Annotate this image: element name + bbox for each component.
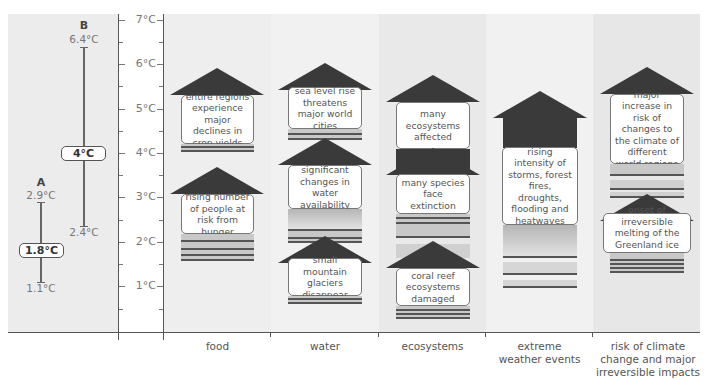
impact-water-sea-level: sea level rise threatens major world cit…: [288, 87, 362, 129]
tick: [157, 197, 163, 198]
tick-label-4: 4°C: [116, 146, 156, 159]
range-a-best-estimate: 1.8°C: [19, 243, 64, 258]
axis-right-line: [163, 14, 164, 340]
tick-minor: [159, 42, 163, 43]
stack-bar: [396, 224, 470, 238]
impact-eco-species-extinction: many species face extinction: [396, 174, 470, 214]
stack-bar: [288, 300, 362, 304]
tick-x: [485, 332, 486, 337]
arrow-roof: [386, 241, 480, 268]
arrow-roof: [170, 167, 264, 194]
range-b-best-estimate: 4°C: [61, 146, 106, 161]
tick: [157, 109, 163, 110]
tick-label-7: 7°C: [116, 13, 156, 26]
category-water: water: [271, 340, 379, 353]
tick: [157, 64, 163, 65]
tick-x: [378, 332, 379, 337]
tick-minor: [119, 131, 123, 132]
tick: [157, 242, 163, 243]
tick-minor: [119, 309, 123, 310]
range-a-low: 1.1°C: [16, 282, 66, 294]
tick: [157, 286, 163, 287]
arrow-roof: [278, 138, 372, 165]
category-risk-line3: irreversible impacts: [590, 366, 706, 379]
stack-bar: [610, 269, 684, 273]
tick-minor: [119, 86, 123, 87]
category-risk-line2: change and major: [590, 353, 706, 366]
stack-bar: [503, 280, 577, 288]
stack-bar: [396, 315, 470, 319]
tick-minor: [159, 309, 163, 310]
arrow-roof: [493, 91, 587, 118]
impact-eco-many-ecosystems: many ecosystems affected: [396, 102, 470, 149]
tick-minor: [119, 42, 123, 43]
stack-bar: [610, 180, 684, 190]
arrow-roof: [386, 148, 480, 175]
tick-label-5: 5°C: [116, 102, 156, 115]
range-b-low: 2.4°C: [59, 226, 109, 238]
impact-food-crop-yields: entire regions experience major declines…: [181, 95, 254, 144]
tick-label-6: 6°C: [116, 57, 156, 70]
impact-risk-greenland: onset of irreversible melting of the Gre…: [603, 213, 691, 253]
impact-water-availability: significant changes in water availabilit…: [288, 165, 362, 209]
stack-bar: [610, 253, 684, 261]
tick-minor: [159, 86, 163, 87]
baseline: [8, 332, 700, 333]
range-a-high: 2.9°C: [16, 189, 66, 201]
range-b-high: 6.4°C: [59, 33, 109, 45]
stack-bar: [181, 256, 254, 261]
range-b-line: [83, 47, 85, 227]
tick-x: [592, 332, 593, 337]
range-a-letter: A: [31, 176, 51, 189]
stack-gradient: [288, 209, 362, 231]
category-extreme-line2: weather events: [486, 353, 593, 366]
tick-x: [270, 332, 271, 337]
tick-label-2: 2°C: [116, 235, 156, 248]
category-ecosystems: ecosystems: [379, 340, 486, 353]
category-risk: risk of climate change and major irrever…: [590, 340, 706, 379]
stack-bar: [610, 164, 684, 176]
stack-gradient: [503, 225, 577, 258]
impact-eco-coral-reefs: coral reef ecosystems damaged: [396, 268, 470, 306]
category-extreme-line1: extreme: [486, 340, 593, 353]
stack-bar: [503, 262, 577, 275]
category-extreme-weather: extreme weather events: [486, 340, 593, 366]
tick-label-1: 1°C: [116, 279, 156, 292]
range-b-letter: B: [74, 19, 94, 32]
impact-water-glaciers: small mountain glaciers disappear: [288, 258, 362, 296]
tick: [157, 20, 163, 21]
tick-minor: [119, 264, 123, 265]
tick-minor: [159, 175, 163, 176]
category-risk-line1: risk of climate: [590, 340, 706, 353]
tick-label-3: 3°C: [116, 190, 156, 203]
arrow-roof: [386, 75, 480, 102]
tick: [157, 153, 163, 154]
tick-minor: [159, 264, 163, 265]
stack-bar: [181, 242, 254, 250]
category-food: food: [164, 340, 271, 353]
arrow-body: [503, 118, 577, 148]
tick-minor: [159, 220, 163, 221]
tick-minor: [159, 131, 163, 132]
stack-bar: [181, 148, 254, 152]
stack-bar: [181, 234, 254, 242]
tick-minor: [119, 220, 123, 221]
impact-extreme-weather: rising intensity of storms, forest fires…: [502, 147, 578, 225]
impact-food-hunger: rising number of people at risk from hun…: [181, 194, 254, 234]
impact-risk-regional-climate: major increase in risk of changes to the…: [610, 94, 684, 164]
tick-minor: [119, 175, 123, 176]
